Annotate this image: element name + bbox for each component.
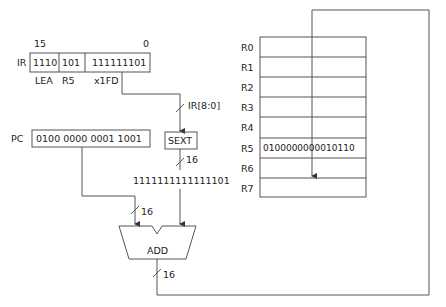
ir-label: IR [17,58,26,68]
sext-label: SEXT [168,136,192,146]
adder-output-width: 16 [163,270,175,280]
lea-datapath-diagram: 15 0 IR 1110 101 111111101 LEA R5 x1FD I… [0,0,446,307]
ir-dr-label: R5 [62,76,75,86]
pc-label: PC [11,134,23,144]
reg-r3-label: R3 [241,103,254,113]
reg-r0-label: R0 [241,43,254,53]
ir-opcode-field: 1110 [33,58,57,68]
ir-opcode-label: LEA [35,76,53,86]
reg-r6-label: R6 [241,164,254,174]
reg-r7-label: R7 [241,184,254,194]
ir-bit-0: 0 [143,39,149,49]
reg-r5-label: R5 [241,144,254,154]
adder-input-width: 16 [141,207,153,217]
ir-dr-field: 101 [62,58,80,68]
adder-label: ADD [147,246,168,256]
pc-value: 0100 0000 0001 1001 [36,134,142,144]
sext-input-label: IR[8:0] [188,101,220,111]
ir-bit-15: 15 [34,39,46,49]
sext-output-value: 1111111111111101 [133,176,230,186]
reg-r4-label: R4 [241,123,254,133]
reg-r5-value: 0100000000010110 [263,144,355,153]
sext-output-width: 16 [186,155,198,165]
ir-offset-field: 111111101 [92,58,146,68]
ir-offset-label: x1FD [94,76,118,86]
reg-r2-label: R2 [241,83,254,93]
wires [0,0,446,307]
reg-r1-label: R1 [241,63,254,73]
